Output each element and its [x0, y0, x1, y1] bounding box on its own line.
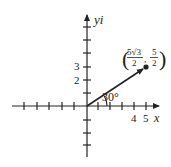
- point-y-numerator: 5: [152, 47, 157, 57]
- svg-text:,: ,: [144, 54, 146, 64]
- point-marker: [143, 64, 148, 69]
- x-tick-label-4: 4: [131, 112, 137, 124]
- x-axis-label: x: [153, 111, 160, 125]
- y-tick-label-2: 2: [74, 74, 80, 86]
- point-x-numerator: 5√3: [127, 47, 141, 57]
- x-tick-label-5: 5: [143, 112, 149, 124]
- y-axis: [83, 15, 91, 157]
- point-y-denominator: 2: [152, 58, 157, 68]
- y-axis-label: yi: [92, 12, 104, 27]
- y-tick-label-3: 3: [74, 60, 80, 72]
- x-axis: [12, 102, 159, 110]
- point-x-denominator: 2: [132, 58, 137, 68]
- complex-plane-diagram: yi x 4 5 2 3 30° ( 5√3 2 , 5 2 ): [0, 0, 171, 167]
- svg-text:): ): [159, 46, 166, 71]
- angle-label: 30°: [102, 90, 119, 104]
